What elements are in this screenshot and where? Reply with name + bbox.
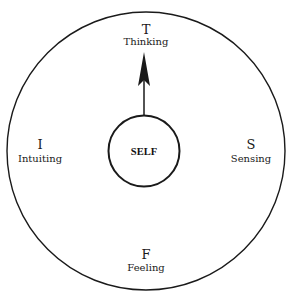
function-label-sensing: Sensing bbox=[231, 153, 272, 164]
psychological-functions-diagram: T Thinking I Intuiting S Sensing F Feeli… bbox=[0, 0, 295, 297]
self-node: SELF bbox=[109, 116, 180, 187]
arrow-to-thinking bbox=[138, 52, 150, 115]
function-right: S Sensing bbox=[231, 137, 272, 164]
function-letter-i: I bbox=[37, 137, 42, 152]
function-bottom: F Feeling bbox=[127, 247, 165, 273]
function-label-feeling: Feeling bbox=[127, 262, 165, 273]
function-top: T Thinking bbox=[124, 22, 169, 47]
function-letter-s: S bbox=[247, 137, 256, 152]
self-label: SELF bbox=[131, 146, 157, 157]
function-letter-f: F bbox=[141, 247, 150, 262]
function-left: I Intuiting bbox=[18, 137, 63, 164]
function-label-thinking: Thinking bbox=[124, 36, 169, 47]
function-label-intuiting: Intuiting bbox=[18, 153, 63, 164]
function-letter-t: T bbox=[142, 22, 151, 37]
